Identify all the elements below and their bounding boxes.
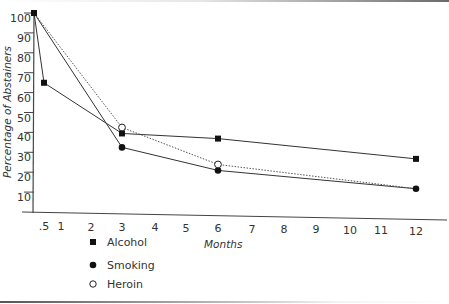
series-markers [31, 10, 419, 192]
alcohol-data-point [413, 156, 419, 162]
y-tick-label: 70 [17, 72, 31, 85]
x-tick-label: 9 [313, 223, 320, 236]
y-tick-label: 50 [17, 112, 31, 125]
x-tick-label: 7 [249, 223, 256, 236]
legend-label: Heroin [107, 278, 143, 291]
y-tick-label: 40 [17, 131, 31, 144]
y-tick-label: 100 [10, 12, 31, 25]
legend-item-alcohol: Alcohol [90, 236, 147, 249]
legend: Alcohol Smoking Heroin [90, 236, 155, 291]
x-ticks: .5123456789101112 [39, 220, 423, 237]
legend-item-smoking: Smoking [90, 259, 155, 272]
x-tick-label: 11 [374, 224, 388, 237]
bottom-rule [0, 301, 449, 303]
x-tick-label: 5 [183, 222, 190, 235]
alcohol-data-point [215, 136, 221, 142]
x-tick-label: 4 [152, 221, 159, 234]
alcohol-line [34, 13, 416, 159]
alcohol-data-point [41, 80, 47, 86]
x-tick-label: 6 [215, 222, 222, 235]
y-tick-label: 60 [17, 92, 31, 105]
x-tick-label: 3 [119, 221, 126, 234]
smoking-line [34, 13, 416, 189]
series-lines [34, 13, 416, 189]
alcohol-data-point [31, 10, 37, 16]
legend-item-heroin: Heroin [90, 278, 143, 291]
y-tick-label: 10 [17, 191, 31, 204]
y-tick-label: 30 [17, 151, 31, 164]
x-tick-label: 12 [409, 225, 423, 238]
filled-circle-marker-icon [90, 262, 97, 269]
y-tick-label: 80 [17, 52, 31, 65]
top-rule [0, 0, 449, 2]
y-tick-label: 20 [17, 171, 31, 184]
heroin-data-point [215, 161, 222, 168]
legend-label: Alcohol [107, 236, 147, 249]
legend-label: Smoking [107, 259, 155, 272]
open-circle-marker-icon [90, 281, 96, 287]
x-axis [22, 212, 447, 220]
heroin-data-point [119, 124, 126, 131]
y-ticks: 102030405060708090100 [10, 12, 34, 204]
y-axis-title: Percentage of Abstainers [1, 45, 13, 178]
smoking-data-point [119, 144, 126, 151]
filled-square-marker-icon [90, 239, 96, 245]
y-tick-label: 90 [17, 32, 31, 45]
abstainers-line-chart: 102030405060708090100 .5123456789101112 … [0, 0, 449, 304]
smoking-data-point [413, 185, 420, 192]
axes [22, 12, 447, 220]
x-tick-label: .5 [39, 220, 50, 233]
x-tick-label: 10 [343, 224, 357, 237]
x-axis-title: Months [204, 238, 243, 250]
x-tick-label: 2 [88, 221, 95, 234]
x-tick-label: 8 [281, 223, 288, 236]
x-tick-label: 1 [58, 220, 65, 233]
